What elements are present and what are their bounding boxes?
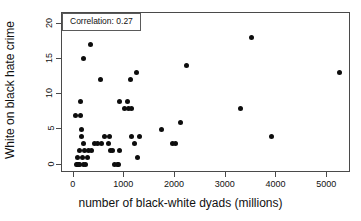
y-axis-tick-label: 5 <box>49 123 54 133</box>
scatter-point <box>135 155 140 160</box>
x-axis-tick-label: 2000 <box>164 179 184 189</box>
x-axis-tick-label: 1000 <box>113 179 133 189</box>
scatter-point <box>128 77 133 82</box>
y-axis-tick-label: 0 <box>49 159 54 169</box>
x-axis-title-text: number of black-white dyads (millions) <box>78 196 282 210</box>
scatter-point <box>107 134 112 139</box>
scatter-point <box>78 113 83 118</box>
y-axis-tick-label: 20 <box>44 18 54 28</box>
y-axis-tick <box>56 164 61 165</box>
scatter-point <box>98 77 103 82</box>
scatter-point <box>99 141 104 146</box>
scatter-point <box>117 99 122 104</box>
scatter-point <box>110 148 115 153</box>
x-axis-tick-label: 3000 <box>215 179 235 189</box>
y-axis-tick <box>56 93 61 94</box>
scatter-point <box>79 127 84 132</box>
scatter-point <box>116 162 121 167</box>
x-axis-tick <box>123 172 124 177</box>
scatter-point <box>238 106 243 111</box>
y-axis-title-text: White on black hate crime <box>3 21 17 159</box>
x-axis-tick <box>225 172 226 177</box>
x-axis-tick <box>326 172 327 177</box>
x-axis-tick <box>73 172 74 177</box>
correlation-annotation-text: Correlation: 0.27 <box>70 16 133 26</box>
scatter-point <box>137 134 142 139</box>
scatter-point <box>178 120 183 125</box>
x-axis-tick <box>275 172 276 177</box>
scatter-point <box>80 155 85 160</box>
y-axis-tick <box>56 23 61 24</box>
scatter-point <box>117 148 122 153</box>
scatter-point <box>129 134 134 139</box>
x-axis-tick <box>174 172 175 177</box>
scatter-point <box>89 148 94 153</box>
scatter-point <box>129 106 134 111</box>
y-axis-title: White on black hate crime <box>2 0 18 180</box>
scatter-point <box>106 141 111 146</box>
x-axis-tick-label: 4000 <box>265 179 285 189</box>
y-axis-tick-label: 10 <box>44 88 54 98</box>
scatter-point <box>132 141 137 146</box>
scatter-point <box>337 70 342 75</box>
scatter-point <box>81 56 86 61</box>
scatter-point <box>159 127 164 132</box>
scatter-point <box>88 42 93 47</box>
x-axis-tick-label: 0 <box>70 179 75 189</box>
correlation-annotation: Correlation: 0.27 <box>62 13 141 31</box>
scatter-point <box>125 99 130 104</box>
scatter-point <box>249 35 254 40</box>
scatter-point <box>79 134 84 139</box>
y-axis-tick-label: 15 <box>44 53 54 63</box>
y-axis-tick <box>56 128 61 129</box>
scatter-point <box>81 141 86 146</box>
y-axis-tick <box>56 58 61 59</box>
scatter-point <box>134 70 139 75</box>
scatter-point <box>269 134 274 139</box>
scatter-point <box>83 162 88 167</box>
scatter-point <box>75 155 80 160</box>
scatter-point <box>173 141 178 146</box>
chart-screenshot: White on black hate crime Correlation: 0… <box>0 0 361 221</box>
x-axis-tick-label: 5000 <box>316 179 336 189</box>
scatter-point <box>85 155 90 160</box>
x-axis-title: number of black-white dyads (millions) <box>0 196 361 210</box>
scatter-point <box>184 63 189 68</box>
plot-area <box>61 12 350 172</box>
scatter-point <box>78 99 83 104</box>
